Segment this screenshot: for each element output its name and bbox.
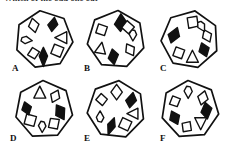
option-label-c: C bbox=[160, 64, 167, 73]
option-d[interactable]: D bbox=[4, 76, 80, 149]
option-a[interactable]: A bbox=[4, 6, 80, 79]
option-label-a: A bbox=[12, 64, 19, 73]
inner-white-square-b bbox=[96, 24, 108, 36]
option-label-b: B bbox=[84, 64, 90, 73]
option-e[interactable]: E bbox=[76, 76, 152, 149]
inner-white-tag-c bbox=[187, 16, 198, 28]
inner-white-square-d bbox=[24, 114, 36, 126]
option-label-f: F bbox=[160, 134, 166, 143]
option-b[interactable]: B bbox=[76, 6, 152, 79]
option-f[interactable]: F bbox=[150, 76, 226, 149]
inner-white-tag-d bbox=[49, 118, 60, 129]
inner-white-square-c bbox=[173, 47, 185, 59]
prompt-text: Which of the odd one out bbox=[4, 0, 98, 3]
option-label-d: D bbox=[10, 134, 17, 143]
option-label-e: E bbox=[84, 134, 90, 143]
figure-puzzle-page: Which of the odd one out ABCDEF bbox=[0, 0, 229, 152]
options-grid: ABCDEF bbox=[0, 6, 229, 152]
option-c[interactable]: C bbox=[150, 6, 226, 79]
inner-white-tag-f bbox=[182, 122, 191, 132]
